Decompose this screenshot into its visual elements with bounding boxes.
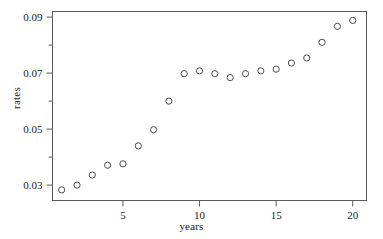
data-point [74, 182, 80, 188]
data-point [227, 74, 233, 80]
y-axis-title: rates [10, 76, 22, 120]
data-point [89, 172, 95, 178]
scatter-chart: 5101520 0.030.050.070.09 rates years [0, 0, 383, 239]
data-point [334, 23, 340, 29]
data-point [304, 55, 310, 61]
data-point [105, 162, 111, 168]
y-tick-label: 0.03 [23, 179, 43, 191]
data-point [181, 71, 187, 77]
y-tick-label: 0.09 [23, 11, 43, 23]
y-axis-ticks: 0.030.050.070.09 [23, 11, 52, 191]
data-point [319, 39, 325, 45]
data-point [196, 68, 202, 74]
data-point [350, 17, 356, 23]
x-axis-ticks: 5101520 [120, 201, 359, 221]
x-axis-title: years [0, 220, 383, 232]
y-tick-label: 0.05 [23, 123, 43, 135]
x-tick-label: 5 [120, 209, 126, 221]
data-point [166, 98, 172, 104]
data-point [273, 66, 279, 72]
data-point [135, 143, 141, 149]
data-point [59, 187, 65, 193]
data-point [258, 68, 264, 74]
y-tick-label: 0.07 [23, 67, 43, 79]
plot-frame [53, 12, 367, 201]
x-tick-label: 20 [347, 209, 359, 221]
x-tick-label: 10 [194, 209, 206, 221]
data-point [288, 60, 294, 66]
data-points [59, 17, 356, 193]
data-point [150, 127, 156, 133]
data-point [120, 161, 126, 167]
data-point [242, 71, 248, 77]
plot-area: 5101520 0.030.050.070.09 [0, 0, 383, 239]
data-point [212, 71, 218, 77]
x-tick-label: 15 [271, 209, 283, 221]
